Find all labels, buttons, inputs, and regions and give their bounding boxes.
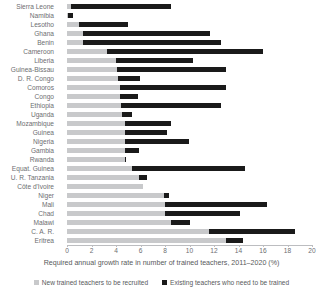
bar-row: Gambia (67, 146, 312, 155)
bar-row: Guinea (67, 128, 312, 137)
x-tick-label: 18 (284, 247, 291, 254)
bar-segment-recruited (67, 31, 83, 36)
bar-segment-recruited (67, 130, 125, 135)
bar-row: Nigeria (67, 137, 312, 146)
stacked-bar (67, 238, 243, 243)
y-axis-label: Guinea (33, 128, 54, 137)
x-tick-label: 16 (259, 247, 266, 254)
y-axis-label: Benin (37, 38, 54, 47)
x-tick-label: 20 (308, 247, 315, 254)
bar-segment-recruited (67, 76, 118, 81)
bar-row: Congo (67, 92, 312, 101)
bar-row: Cameroon (67, 47, 312, 56)
x-tick-label: 14 (235, 247, 242, 254)
y-axis-label: Niger (38, 191, 54, 200)
y-axis-label: Malawi (33, 218, 54, 227)
stacked-bar (67, 193, 169, 198)
bar-row: Côte d'Ivoire (67, 182, 312, 191)
bar-segment-recruited (67, 94, 120, 99)
y-axis-label: D. R. Congo (18, 74, 54, 83)
y-axis-label: Chad (38, 209, 54, 218)
stacked-bar (67, 121, 171, 126)
y-axis-label: Comoros (27, 83, 54, 92)
x-tick-label: 12 (210, 247, 217, 254)
legend-swatch-black (162, 280, 167, 285)
bar-segment-recruited (67, 184, 143, 189)
y-axis-label: Mozambique (16, 119, 54, 128)
bar-segment-existing (226, 238, 243, 243)
bar-row: C. A. R. (67, 227, 312, 236)
y-axis-label: Lesotho (31, 20, 54, 29)
y-axis-label: Mali (42, 200, 54, 209)
stacked-bar (67, 166, 245, 171)
legend-item: New trained teachers to be recruited (34, 279, 148, 286)
stacked-bar (67, 103, 221, 108)
bar-row: Ethiopia (67, 101, 312, 110)
bar-row: Namibia (67, 11, 312, 20)
x-tick-label: 2 (90, 247, 94, 254)
bar-row: Liberia (67, 56, 312, 65)
stacked-bar (67, 175, 147, 180)
bar-segment-existing (116, 58, 193, 63)
bar-segment-existing (209, 229, 295, 234)
bar-row: U. R. Tanzania (67, 173, 312, 182)
bar-segment-recruited (67, 49, 107, 54)
y-axis-label: Congo (35, 92, 54, 101)
bar-row: Equat. Guinea (67, 164, 312, 173)
stacked-bar (67, 139, 189, 144)
bar-segment-recruited (67, 202, 165, 207)
bar-row: D. R. Congo (67, 74, 312, 83)
y-axis-label: C. A. R. (31, 227, 54, 236)
bar-segment-recruited (67, 157, 125, 162)
stacked-bar (67, 40, 221, 45)
bar-row: Uganda (67, 110, 312, 119)
stacked-bar (67, 130, 167, 135)
stacked-bar (67, 184, 143, 189)
stacked-bar (67, 4, 171, 9)
y-axis-label: Namibia (30, 11, 54, 20)
bar-row: Comoros (67, 83, 312, 92)
bar-segment-existing (83, 40, 221, 45)
horizontal-stacked-bar-chart: Sierra LeoneNamibiaLesothoGhanaBeninCame… (0, 0, 323, 300)
legend-label: Existing teachers who need to be trained (170, 279, 289, 286)
bar-row: Eritrea (67, 236, 312, 245)
bar-segment-recruited (67, 121, 125, 126)
bar-segment-existing (122, 112, 132, 117)
bar-segment-recruited (67, 238, 226, 243)
y-axis-label: Cameroon (23, 47, 54, 56)
bar-segment-existing (120, 85, 227, 90)
stacked-bar (67, 31, 210, 36)
y-axis-label: Liberia (34, 56, 54, 65)
bar-segment-recruited (67, 211, 165, 216)
x-axis-title: Required annual growth rate in number of… (0, 259, 323, 267)
y-axis-label: U. R. Tanzania (11, 173, 54, 182)
bar-segment-recruited (67, 85, 120, 90)
y-axis-label: Equat. Guinea (12, 164, 54, 173)
bar-segment-recruited (67, 67, 117, 72)
bar-row: Malawi (67, 218, 312, 227)
bar-segment-existing (165, 211, 240, 216)
y-axis-label: Guinea-Bissau (11, 65, 54, 74)
bar-segment-existing (121, 103, 221, 108)
chart-legend: New trained teachers to be recruitedExis… (0, 279, 323, 286)
stacked-bar (67, 22, 128, 27)
bar-segment-recruited (67, 58, 116, 63)
y-axis-label: Eritrea (35, 236, 54, 245)
bar-segment-existing (83, 31, 210, 36)
bar-segment-existing (125, 148, 140, 153)
bar-row: Mozambique (67, 119, 312, 128)
bar-segment-existing (165, 202, 267, 207)
bar-segment-existing (118, 76, 140, 81)
stacked-bar (67, 58, 193, 63)
stacked-bar (67, 85, 226, 90)
plot-area: Sierra LeoneNamibiaLesothoGhanaBeninCame… (67, 2, 312, 245)
x-tick-label: 4 (114, 247, 118, 254)
stacked-bar (67, 76, 140, 81)
bar-segment-existing (71, 4, 171, 9)
stacked-bar (67, 157, 126, 162)
x-tick-label: 6 (139, 247, 143, 254)
y-axis-label: Ghana (34, 29, 54, 38)
y-axis-label: Nigeria (33, 137, 54, 146)
bar-row: Chad (67, 209, 312, 218)
legend-swatch-gray (34, 280, 39, 285)
